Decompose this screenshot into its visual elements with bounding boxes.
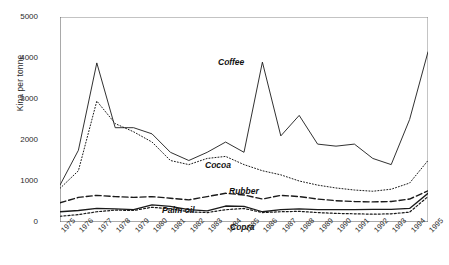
y-axis-tick-4000: 4000 bbox=[20, 53, 38, 62]
y-axis-tick-5000: 5000 bbox=[20, 12, 38, 21]
series-label-palm-oil: Palm oil bbox=[162, 205, 195, 215]
x-axis-tick-1995: 1995 bbox=[427, 216, 445, 234]
series-line-cocoa bbox=[60, 101, 428, 191]
y-axis-tick-0: 0 bbox=[34, 217, 38, 226]
y-axis-tick-group: 010002000300040005000 bbox=[0, 0, 56, 265]
chart-figure: Kina per tonne 010002000300040005000 197… bbox=[0, 0, 449, 265]
series-label-copra: Copra bbox=[230, 222, 255, 232]
y-axis-tick-1000: 1000 bbox=[20, 176, 38, 185]
series-label-coffee: Coffee bbox=[218, 57, 244, 67]
series-label-rubber: Rubber bbox=[229, 186, 259, 196]
y-axis-tick-3000: 3000 bbox=[20, 94, 38, 103]
series-label-cocoa: Cocoa bbox=[205, 160, 231, 170]
y-axis-tick-2000: 2000 bbox=[20, 135, 38, 144]
